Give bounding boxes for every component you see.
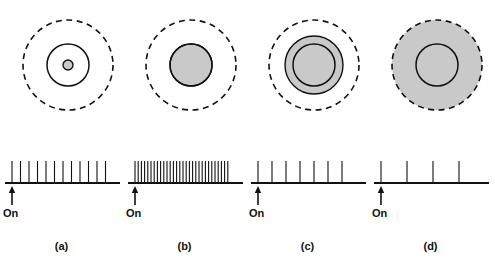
spike-train-c [246, 150, 369, 210]
onset-arrow-a [9, 186, 15, 205]
spike-train-a [0, 150, 123, 210]
onset-arrow-c [255, 186, 261, 205]
panel-d: On(d) [369, 0, 492, 267]
spikes-a [12, 161, 106, 183]
panel-label-b: (b) [123, 240, 246, 252]
panel-c: On(c) [246, 0, 369, 267]
panel-a: On(a) [0, 0, 123, 267]
spike-train-b [123, 150, 246, 210]
receptive-field-diagram-a [0, 8, 123, 123]
panel-label-a: (a) [0, 240, 123, 252]
receptive-field-diagram-d [369, 8, 492, 123]
onset-label-c: On [249, 207, 264, 219]
receptive-field-figure: On(a)On(b)On(c)On(d) [0, 0, 495, 267]
spike-train-d [369, 150, 492, 210]
onset-arrow-d [378, 186, 384, 205]
stimulus-spot-a [63, 60, 73, 70]
spikes-b [135, 161, 228, 183]
onset-label-d: On [372, 207, 387, 219]
panel-label-d: (d) [369, 240, 492, 252]
spikes-d [381, 161, 459, 183]
onset-arrow-b [132, 186, 138, 205]
spikes-c [258, 161, 342, 183]
onset-label-a: On [3, 207, 18, 219]
panel-b: On(b) [123, 0, 246, 267]
receptive-field-diagram-b [123, 8, 246, 123]
receptive-field-diagram-c [246, 8, 369, 123]
onset-label-b: On [126, 207, 141, 219]
panel-label-c: (c) [246, 240, 369, 252]
